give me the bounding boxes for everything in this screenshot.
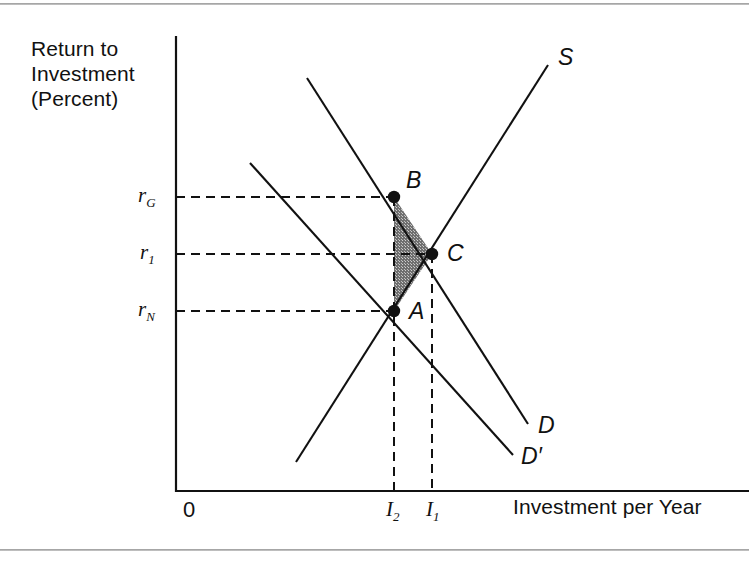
supply-curve-s	[296, 65, 548, 462]
demand-curve-d	[307, 78, 528, 424]
point-label-b: B	[406, 167, 421, 194]
point-label-c: C	[447, 240, 464, 267]
point-marker-b	[388, 191, 400, 203]
y-tick-sub-rN: N	[146, 309, 155, 324]
x-tick-sub-I2: 2	[393, 509, 400, 524]
x-tick-base-I2: I	[386, 497, 393, 521]
point-marker-a	[388, 305, 400, 317]
curve-label-d-prime: D′	[521, 443, 542, 470]
x-tick-label-I1: I1	[426, 497, 440, 525]
curve-label-s: S	[558, 44, 573, 71]
point-marker-c	[426, 248, 438, 260]
y-tick-label-rG: rG	[138, 183, 156, 211]
y-tick-base-rN: r	[138, 297, 146, 321]
curve-label-d: D	[538, 412, 555, 439]
y-tick-label-rN: rN	[138, 297, 155, 325]
x-tick-label-I2: I2	[386, 497, 400, 525]
x-axis-title: Investment per Year	[513, 494, 702, 519]
demand-curve-d-prime	[250, 163, 513, 455]
y-tick-label-r1: r1	[140, 240, 155, 268]
x-tick-sub-I1: 1	[433, 509, 440, 524]
y-axis-title: Return to Investment (Percent)	[31, 36, 135, 111]
origin-label: 0	[183, 497, 195, 523]
economics-diagram: Return to Investment (Percent) Investmen…	[0, 0, 749, 563]
y-tick-sub-r1: 1	[148, 252, 155, 267]
y-tick-base-rG: r	[138, 183, 146, 207]
y-tick-sub-rG: G	[146, 195, 155, 210]
x-tick-base-I1: I	[426, 497, 433, 521]
point-label-a: A	[409, 298, 424, 325]
y-tick-base-r1: r	[140, 240, 148, 264]
